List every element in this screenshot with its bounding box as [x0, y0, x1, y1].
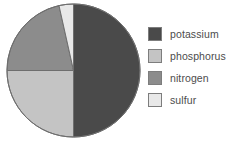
- legend-item-phosphorus[interactable]: phosphorus: [148, 47, 240, 65]
- legend-swatch-phosphorus: [148, 49, 162, 63]
- pie-slice-group: [7, 4, 140, 137]
- legend-swatch-nitrogen: [148, 71, 162, 85]
- legend-item-sulfur[interactable]: sulfur: [148, 91, 240, 109]
- chart-legend: potassium phosphorus nitrogen sulfur: [148, 25, 240, 109]
- legend-label-sulfur: sulfur: [170, 94, 196, 106]
- pie-chart-figure: potassium phosphorus nitrogen sulfur: [0, 0, 240, 143]
- legend-label-potassium: potassium: [170, 28, 219, 40]
- pie-slice-potassium[interactable]: [74, 4, 141, 137]
- legend-item-potassium[interactable]: potassium: [148, 25, 240, 43]
- legend-item-nitrogen[interactable]: nitrogen: [148, 69, 240, 87]
- legend-swatch-potassium: [148, 27, 162, 41]
- legend-swatch-sulfur: [148, 93, 162, 107]
- legend-label-nitrogen: nitrogen: [170, 72, 209, 84]
- legend-label-phosphorus: phosphorus: [170, 50, 226, 62]
- pie-slice-phosphorus[interactable]: [7, 71, 74, 138]
